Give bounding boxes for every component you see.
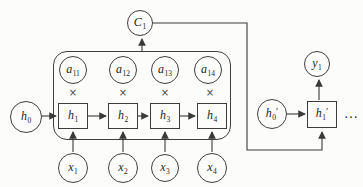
context-vector-node: C1	[127, 10, 153, 36]
decoder-initial-state-label: h0′	[266, 107, 278, 122]
decoder-initial-state-node: h0′	[257, 99, 287, 129]
encoder-initial-state-node: h0	[10, 101, 42, 133]
decoder-hidden-label: h1′	[316, 107, 328, 122]
input-label: x3	[160, 161, 170, 176]
multiply-icon: ×	[69, 88, 77, 98]
attention-diagram: C1 a11 a12 a13 a14 × × × × h0 h1 h2 h3 h…	[0, 0, 363, 187]
attention-weight-node-a14: a14	[194, 56, 222, 84]
multiply-icon: ×	[206, 88, 214, 98]
encoder-hidden-node-h3: h3	[150, 103, 180, 129]
input-label: x4	[207, 161, 217, 176]
wire-context-to-decoder	[153, 23, 322, 150]
encoder-hidden-label: h3	[160, 109, 170, 124]
multiply-icon: ×	[161, 88, 169, 98]
encoder-hidden-node-h4: h4	[197, 103, 227, 129]
output-node: y1	[304, 51, 330, 77]
attention-weight-label: a14	[201, 63, 215, 78]
context-vector-label: C1	[134, 16, 146, 31]
decoder-hidden-node: h1′	[307, 101, 337, 128]
input-node-x4: x4	[197, 153, 227, 183]
connector-wires	[0, 0, 363, 187]
attention-weight-node-a11: a11	[59, 56, 87, 84]
input-node-x1: x1	[58, 153, 88, 183]
encoder-hidden-node-h1: h1	[58, 103, 88, 129]
input-node-x3: x3	[151, 154, 179, 182]
attention-weight-label: a11	[66, 63, 80, 78]
attention-weight-label: a12	[116, 63, 130, 78]
attention-weight-label: a13	[158, 63, 172, 78]
encoder-hidden-node-h2: h2	[108, 103, 138, 129]
multiply-icon: ×	[119, 88, 127, 98]
input-label: x2	[118, 161, 128, 176]
encoder-initial-state-label: h0	[21, 110, 31, 125]
attention-weight-node-a13: a13	[151, 56, 179, 84]
attention-weight-node-a12: a12	[109, 56, 137, 84]
encoder-hidden-label: h4	[207, 109, 217, 124]
output-label: y1	[312, 57, 322, 72]
input-node-x2: x2	[108, 153, 138, 183]
input-label: x1	[68, 161, 78, 176]
encoder-hidden-label: h2	[118, 109, 128, 124]
encoder-hidden-label: h1	[68, 109, 78, 124]
continuation-ellipsis: …	[344, 107, 360, 121]
